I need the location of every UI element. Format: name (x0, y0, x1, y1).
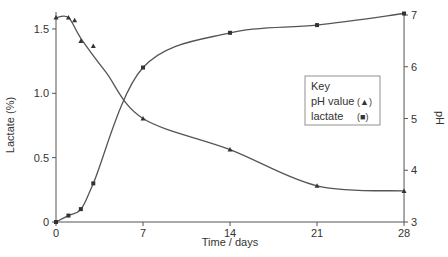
chart: 0714212800.51.01.534567 Key pH value (▲)… (0, 0, 448, 257)
lactate-marker (141, 66, 145, 70)
x-axis-title: Time / days (202, 236, 259, 248)
ph-marker (91, 44, 96, 49)
lactate-marker (79, 207, 83, 211)
y-left-tick-label: 1.5 (34, 23, 49, 35)
lactate-marker (54, 220, 58, 224)
legend-label-lactate: lactate (311, 110, 343, 122)
ph-marker (72, 18, 77, 23)
legend-label-ph: pH value (311, 95, 354, 107)
y-right-axis-title: pH (434, 111, 446, 125)
y-right-tick-label: 3 (411, 216, 417, 228)
y-right-tick-label: 4 (411, 164, 417, 176)
lactate-marker (402, 12, 406, 16)
legend-marker-lactate: (■) (357, 112, 368, 122)
y-right-tick-label: 7 (411, 9, 417, 21)
x-tick-label: 7 (140, 227, 146, 239)
legend: Key pH value (▲) lactate (■) (305, 76, 380, 125)
y-left-axis-title: Lactate (%) (4, 97, 16, 153)
y-left-tick-label: 0 (43, 216, 49, 228)
y-right-tick-label: 5 (411, 113, 417, 125)
x-tick-label: 0 (53, 227, 59, 239)
legend-marker-ph: (▲) (357, 97, 372, 107)
lactate-marker (228, 31, 232, 35)
lactate-marker (315, 23, 319, 27)
lactate-marker (91, 181, 95, 185)
y-right-tick-label: 6 (411, 61, 417, 73)
y-left-tick-label: 1.0 (34, 87, 49, 99)
legend-title: Key (311, 80, 330, 92)
y-left-tick-label: 0.5 (34, 152, 49, 164)
lactate-marker (66, 214, 70, 218)
x-tick-label: 21 (311, 227, 323, 239)
ph-marker (66, 15, 71, 20)
x-tick-label: 28 (398, 227, 410, 239)
